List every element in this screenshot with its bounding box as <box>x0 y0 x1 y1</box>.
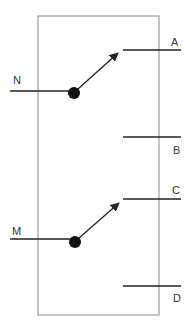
switch-upper: NAB <box>10 36 181 156</box>
output-label-c: C <box>172 184 180 196</box>
output-label-d: D <box>173 292 181 304</box>
output-label-b: B <box>173 144 180 156</box>
switch-diagram: NABMCD <box>0 0 194 333</box>
input-label-n: N <box>13 74 21 86</box>
switch-arm-arrow-icon <box>79 203 119 238</box>
switch-lower: MCD <box>10 184 181 304</box>
input-label-m: M <box>12 225 21 237</box>
output-label-a: A <box>171 36 179 48</box>
switch-arm-arrow-icon <box>78 53 118 89</box>
pivot-dot-icon <box>69 236 81 248</box>
enclosure-box <box>38 16 159 315</box>
pivot-dot-icon <box>68 87 80 99</box>
